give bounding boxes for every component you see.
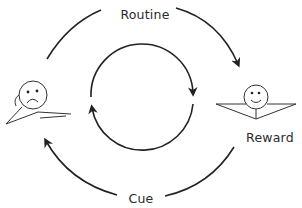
outer-arc-bottom-left-arrow	[46, 141, 117, 195]
inner-arc-top-arrow	[91, 44, 193, 97]
habit-loop-diagram	[0, 0, 302, 208]
label-routine: Routine	[120, 7, 169, 22]
outer-arc-top-left	[47, 10, 101, 59]
outer-arc-bottom-right	[165, 147, 234, 196]
inner-arc-bottom-arrow	[92, 104, 193, 150]
sad-stick-figure-icon	[6, 81, 71, 124]
outer-arc-top-right-arrow	[176, 8, 238, 64]
label-reward: Reward	[246, 130, 294, 145]
happy-stick-figure-icon	[216, 85, 296, 119]
label-cue: Cue	[129, 191, 154, 206]
